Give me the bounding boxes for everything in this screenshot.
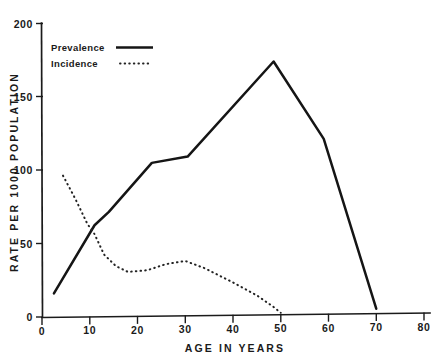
chart-series-group bbox=[54, 61, 376, 312]
y-tick-label-50: 50 bbox=[20, 238, 33, 250]
x-axis-line bbox=[42, 313, 430, 318]
legend-label-incidence: Incidence bbox=[51, 58, 98, 69]
x-tick-label-40: 40 bbox=[227, 323, 240, 335]
x-tick-label-60: 60 bbox=[322, 322, 335, 334]
legend-entry-incidence: Incidence bbox=[51, 58, 152, 69]
x-axis-title: AGE IN YEARS bbox=[185, 342, 285, 354]
x-tick-label-30: 30 bbox=[179, 323, 192, 335]
series-line-prevalence bbox=[54, 61, 376, 308]
x-tick-label-80: 80 bbox=[418, 321, 431, 333]
chart-svg: 200 150 100 50 0 RATE PER 1000 POPULATIO… bbox=[0, 0, 444, 358]
chart-axes bbox=[42, 23, 431, 318]
legend-entry-prevalence: Prevalence bbox=[51, 42, 153, 53]
x-tick-label-10: 10 bbox=[83, 324, 96, 336]
x-tick-label-50: 50 bbox=[274, 322, 287, 334]
legend-label-prevalence: Prevalence bbox=[51, 42, 105, 53]
x-tick-label-70: 70 bbox=[370, 321, 383, 333]
chart-legend: Prevalence Incidence bbox=[51, 42, 153, 69]
x-tick-label-20: 20 bbox=[131, 324, 144, 336]
y-axis-title: RATE PER 1000 POPULATION bbox=[8, 72, 20, 272]
y-tick-label-0: 0 bbox=[27, 311, 33, 323]
y-tick-label-200: 200 bbox=[14, 18, 33, 30]
series-line-incidence bbox=[63, 176, 281, 313]
chart-figure: 200 150 100 50 0 RATE PER 1000 POPULATIO… bbox=[0, 0, 444, 358]
x-tick-label-0: 0 bbox=[39, 325, 45, 337]
x-axis-tick-labels: 0 10 20 30 40 50 60 70 80 bbox=[39, 321, 431, 337]
